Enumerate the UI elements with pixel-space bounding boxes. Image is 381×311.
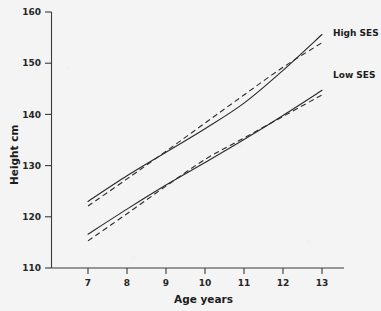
y-tick-label-140: 140 — [22, 110, 41, 120]
y-tick-label-160: 160 — [22, 7, 41, 17]
chart-background — [0, 0, 381, 311]
legend-label-low-ses: Low SES — [333, 70, 375, 80]
x-tick-label-7: 7 — [85, 278, 91, 288]
x-tick-label-10: 10 — [199, 278, 212, 288]
legend-label-high-ses: High SES — [333, 28, 379, 38]
x-axis-title: Age years — [174, 293, 233, 305]
x-tick-label-12: 12 — [277, 278, 290, 288]
y-tick-label-150: 150 — [22, 58, 41, 68]
x-tick-label-9: 9 — [163, 278, 169, 288]
y-axis-title: Height cm — [8, 125, 20, 185]
y-tick-label-110: 110 — [22, 263, 41, 273]
x-tick-label-13: 13 — [316, 278, 329, 288]
y-tick-label-130: 130 — [22, 161, 41, 171]
chart-figure: 110120130140150160 78910111213 Height cm… — [0, 0, 381, 311]
x-tick-label-8: 8 — [124, 278, 130, 288]
x-tick-label-11: 11 — [238, 278, 251, 288]
y-tick-label-120: 120 — [22, 212, 41, 222]
growth-chart-svg: 110120130140150160 78910111213 Height cm… — [0, 0, 381, 311]
